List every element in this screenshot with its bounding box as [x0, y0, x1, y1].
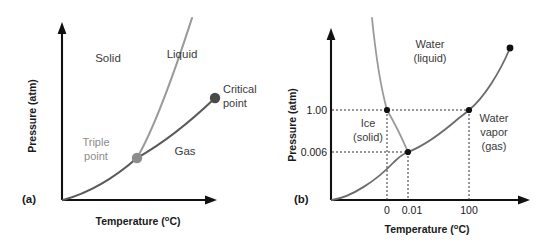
panel-a-triple-point-marker [132, 153, 142, 163]
panel-b-tag: (b) [294, 193, 309, 205]
panel-b-region-label-water-liquid-line1: Water [416, 38, 445, 50]
panel-a-triple-point-label-line1: Triple [82, 136, 109, 148]
panel-b-y-axis-title: Pressure (atm) [286, 88, 298, 162]
panel-a-region-label-liquid: Liquid [167, 48, 198, 60]
panel-a-generic-phase-diagram: Solid Liquid Gas Triple point Critical p… [0, 0, 272, 249]
panel-a-x-axis-title-unit: C) [169, 215, 180, 227]
panel-b-x-axis-title-unit: C) [458, 223, 469, 235]
panel-b-y-tick-label-1: 1.00 [307, 104, 328, 116]
x-axis-arrowhead [518, 196, 530, 205]
panel-a-x-axis-title-main: Temperature ( [96, 215, 166, 227]
panel-b-region-label-water-vapor-line3: (gas) [481, 140, 506, 152]
panel-b-x-tick-label-2: 0.01 [402, 204, 423, 216]
panel-b-melting-point-marker [384, 107, 390, 113]
panel-b-x-tick-label-1: 0 [384, 204, 390, 216]
panel-b-critical-point-marker [507, 45, 514, 52]
panel-b-x-axis-title-main: Temperature ( [385, 223, 455, 235]
panel-a-fusion-curve [137, 18, 192, 158]
panel-a-y-axis [58, 22, 67, 200]
panel-b-region-label-water-liquid-line2: (liquid) [413, 52, 446, 64]
panel-b-y-tick-label-2: 0.006 [301, 146, 327, 158]
panel-a-x-axis [62, 196, 217, 205]
panel-a-x-axis-title: Temperature (oC) [96, 214, 181, 227]
panel-b-region-label-water-vapor-line2: vapor [480, 126, 508, 138]
panel-a-critical-point-label-line1: Critical [223, 83, 257, 95]
panel-b-x-tick-label-3: 100 [460, 204, 478, 216]
panel-b-x-axis-title: Temperature (oC) [385, 222, 470, 235]
phase-diagram-figure: Solid Liquid Gas Triple point Critical p… [0, 0, 545, 249]
panel-b-x-axis [331, 196, 530, 205]
y-axis-arrowhead [58, 22, 67, 34]
panel-b-y-axis [327, 28, 336, 200]
y-axis-arrowhead [327, 28, 336, 40]
panel-a-y-axis-title: Pressure (atm) [26, 79, 38, 153]
panel-a-tag: (a) [22, 193, 36, 205]
panel-a-region-label-solid: Solid [95, 52, 121, 64]
panel-b-boiling-point-marker [466, 107, 472, 113]
x-axis-arrowhead [205, 196, 217, 205]
panel-b-vaporization-curve [332, 48, 510, 200]
panel-b-water-phase-diagram: 1.00 0.006 0 0.01 100 Water (liquid) Ice… [272, 0, 545, 249]
panel-b-region-label-water-vapor-line1: Water [480, 112, 509, 124]
panel-a-critical-point-marker [210, 93, 220, 103]
panel-b-region-label-ice-solid-line2: (solid) [353, 131, 383, 143]
panel-b-region-label-ice-solid-line1: Ice [361, 117, 376, 129]
panel-b-triple-point-marker [405, 149, 411, 155]
panel-a-critical-point-label-line2: point [223, 97, 247, 109]
panel-a-triple-point-label-line2: point [84, 150, 108, 162]
panel-a-region-label-gas: Gas [174, 145, 195, 157]
